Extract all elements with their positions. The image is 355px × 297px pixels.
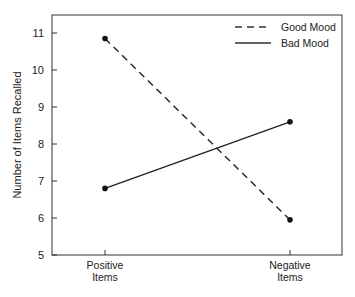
svg-text:7: 7 [38,175,44,187]
legend-bad-mood: Bad Mood [281,37,329,49]
svg-text:5: 5 [38,249,44,261]
line-chart: 567891011 PositiveItemsNegativeItems Num… [0,0,355,297]
series-lines [102,36,293,223]
y-axis: 567891011 [32,27,57,261]
svg-text:Negative: Negative [269,259,311,271]
legend: Good Mood Bad Mood [235,21,336,49]
plot-frame [52,15,342,255]
y-axis-label: Number of Items Recalled [11,71,23,198]
svg-text:Positive: Positive [87,259,124,271]
svg-text:11: 11 [33,27,44,39]
legend-good-mood: Good Mood [281,21,336,33]
svg-text:8: 8 [38,138,44,150]
svg-text:Items: Items [277,271,303,283]
svg-text:10: 10 [32,64,44,76]
svg-text:9: 9 [38,101,44,113]
svg-text:Items: Items [92,271,118,283]
svg-text:6: 6 [38,212,44,224]
